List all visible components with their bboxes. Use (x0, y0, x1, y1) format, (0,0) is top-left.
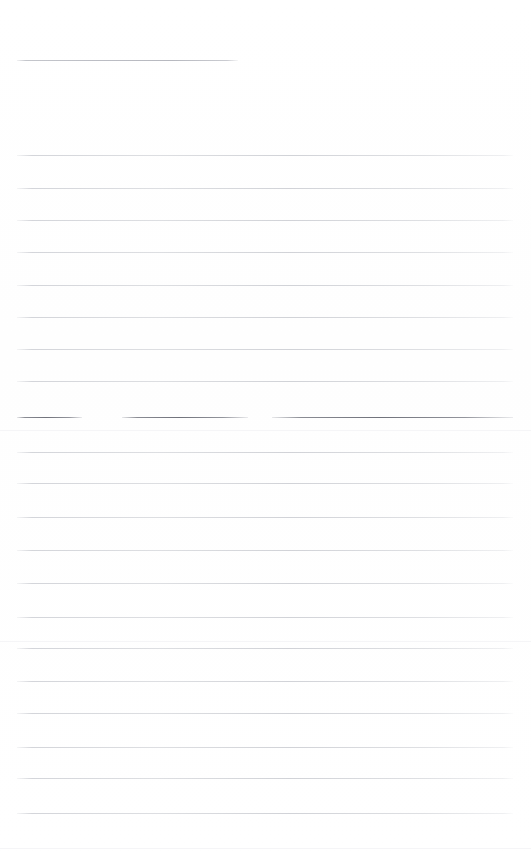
scan-speckle-band (0, 848, 531, 849)
ruled-line (17, 517, 513, 518)
scan-speckle-band (0, 641, 531, 642)
ruled-line (17, 252, 513, 253)
ruled-line (17, 285, 513, 286)
top-short-rule (17, 60, 238, 61)
scanned-page (0, 0, 531, 857)
broken-rule-segment (272, 417, 513, 418)
ruled-line (17, 550, 513, 551)
ruled-line (17, 349, 513, 350)
ruled-line (17, 617, 513, 618)
broken-rule-segment (122, 417, 248, 418)
ruled-line (17, 220, 513, 221)
ruled-line (17, 813, 513, 814)
ruled-line (17, 681, 513, 682)
ruled-line (17, 713, 513, 714)
ruled-line (17, 583, 513, 584)
ruled-line (17, 483, 513, 484)
ruled-line (17, 381, 513, 382)
ruled-line (17, 317, 513, 318)
ruled-line (17, 648, 513, 649)
ruled-line (17, 778, 513, 779)
ruled-line (17, 188, 513, 189)
ruled-line (17, 747, 513, 748)
paper-surface (0, 0, 531, 857)
ruled-line (17, 155, 513, 156)
scan-speckle-band (0, 430, 531, 431)
ruled-line (17, 452, 513, 453)
broken-rule-segment (17, 417, 82, 418)
